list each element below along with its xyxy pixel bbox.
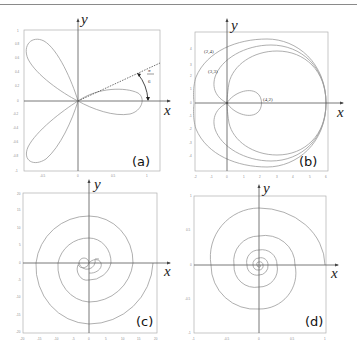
xtick: 6 xyxy=(325,175,327,179)
ytick: 1 xyxy=(17,29,19,33)
ytick: -15 xyxy=(16,313,21,317)
annotation-4-2: (4,2) xyxy=(263,97,273,103)
ytick: 5 xyxy=(19,243,21,247)
petal-lower-left xyxy=(26,101,78,163)
ytick: 0 xyxy=(17,99,19,103)
y-label: y xyxy=(92,176,101,192)
ytick: -2 xyxy=(189,127,192,131)
ytick: -10 xyxy=(16,295,21,299)
panel-c: y x (c) 20 15 10 5 0 -5 -10 -15 -20 -20 … xyxy=(16,176,171,341)
ytick: -0.6 xyxy=(13,140,19,144)
xtick: -0.5 xyxy=(40,174,46,178)
ytick: -0.4 xyxy=(13,126,19,130)
x-label: x xyxy=(330,265,338,281)
xtick: 5 xyxy=(105,337,107,341)
xtick: 10 xyxy=(121,337,125,341)
panel-label-c: (c) xyxy=(136,314,153,329)
xtick: -0.5 xyxy=(224,337,230,341)
xtick: -2 xyxy=(194,175,197,179)
y-arrow-icon xyxy=(88,179,91,183)
ytick: -0.5 xyxy=(185,297,191,301)
angle-denominator: 6 xyxy=(148,79,151,84)
xtick: -10 xyxy=(54,337,59,341)
xtick: -15 xyxy=(37,337,42,341)
ytick: 0.5 xyxy=(186,228,191,232)
ytick: 0.4 xyxy=(15,70,20,74)
ytick: 20 xyxy=(17,192,21,196)
xtick: 0 xyxy=(77,174,79,178)
panel-label-a: (a) xyxy=(132,154,150,169)
panel-a: y x π 6 (a) 1 0.8 0.6 0.4 0.2 0 -0.2 -0.… xyxy=(13,11,171,178)
xtick: 0 xyxy=(258,337,260,341)
angle-numerator: π xyxy=(148,68,151,73)
ytick: 2 xyxy=(190,74,192,78)
petal-upper-left xyxy=(26,39,78,101)
y-label: y xyxy=(261,180,270,196)
xtick: 0 xyxy=(226,175,228,179)
xtick: -20 xyxy=(20,337,25,341)
ytick: 0.2 xyxy=(15,84,20,88)
ytick: -5 xyxy=(18,278,21,282)
xtick: -1 xyxy=(210,175,213,179)
ytick: 4 xyxy=(190,47,192,51)
ytick: -20 xyxy=(16,330,21,334)
xtick: 0 xyxy=(88,337,90,341)
x-label: x xyxy=(336,104,344,120)
xtick: 20 xyxy=(154,337,158,341)
ytick: -1 xyxy=(189,114,192,118)
ytick: 0.8 xyxy=(15,42,20,46)
xtick: 2 xyxy=(259,175,261,179)
arrowhead-icon xyxy=(137,73,141,77)
ytick: 0 xyxy=(190,263,192,267)
panel-d-frame xyxy=(194,196,326,333)
xtick: 0.5 xyxy=(290,337,295,341)
ytick: -0.8 xyxy=(13,154,19,158)
angle-arc xyxy=(138,74,148,100)
xtick: 4 xyxy=(292,175,294,179)
panel-b: y x (2,4) (3,3) (4,2) (b) 4 3 2 1 0 -1 -… xyxy=(189,17,344,179)
y-label: y xyxy=(229,17,238,33)
y-arrow-icon xyxy=(258,184,261,188)
ytick: 10 xyxy=(17,226,21,230)
xtick: -1 xyxy=(192,337,195,341)
ytick: -1 xyxy=(15,169,18,173)
x-label: x xyxy=(163,102,171,118)
xtick: 1 xyxy=(243,175,245,179)
xtick: 0.5 xyxy=(111,174,116,178)
panel-a-frame xyxy=(24,30,160,171)
ytick: -0.2 xyxy=(13,112,19,116)
y-arrow-icon xyxy=(226,18,229,22)
ytick: -4 xyxy=(189,154,192,158)
ytick: 1 xyxy=(190,87,192,91)
arrowhead-icon xyxy=(146,97,150,101)
panel-label-d: (d) xyxy=(305,314,323,329)
ytick: 0.6 xyxy=(15,56,20,60)
ytick: 15 xyxy=(17,208,21,212)
xtick: 15 xyxy=(137,337,141,341)
polar-curves-figure: y x π 6 (a) 1 0.8 0.6 0.4 0.2 0 -0.2 -0.… xyxy=(0,0,357,355)
ytick: 0 xyxy=(190,101,192,105)
annotation-2-4: (2,4) xyxy=(204,49,214,55)
x-label: x xyxy=(163,263,171,279)
xtick: -5 xyxy=(72,337,75,341)
y-arrow-icon xyxy=(77,18,80,22)
log-spiral xyxy=(210,208,325,309)
xtick: 1 xyxy=(324,337,326,341)
ytick: 1 xyxy=(190,194,192,198)
panel-d: y x (d) 1 0.5 0 -0.5 -1 -1 -0.5 0 0.5 1 xyxy=(185,180,339,341)
ytick: 0 xyxy=(19,261,21,265)
spiral-arm xyxy=(36,216,153,324)
ytick: -1 xyxy=(188,331,191,335)
xtick: 5 xyxy=(309,175,311,179)
petal-right xyxy=(78,89,142,114)
ytick: 3 xyxy=(190,63,192,67)
ytick: -3 xyxy=(189,141,192,145)
xtick: 3 xyxy=(276,175,278,179)
xtick: 1 xyxy=(146,174,148,178)
y-label: y xyxy=(79,11,88,27)
panel-label-b: (b) xyxy=(299,154,317,169)
